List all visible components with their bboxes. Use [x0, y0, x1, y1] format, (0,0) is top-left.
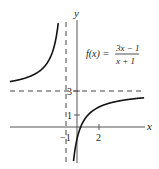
- y-tick-label-3: 3: [67, 86, 72, 97]
- curve-right-branch: [74, 98, 145, 161]
- y-tick-label-1: 1: [67, 110, 72, 121]
- function-denominator: x + 1: [115, 56, 135, 66]
- function-numerator: 3x − 1: [115, 43, 140, 53]
- y-axis-label: y: [73, 7, 79, 19]
- x-tick-label-2: 2: [96, 132, 101, 143]
- curve-left-branch: [10, 23, 58, 82]
- chart-canvas: y x −1 2 1 3 f(x) = 3x − 1 x + 1: [0, 0, 159, 169]
- x-tick-label-neg1: −1: [60, 132, 71, 143]
- function-lhs: f(x) =: [86, 48, 109, 60]
- x-axis-label: x: [146, 120, 152, 132]
